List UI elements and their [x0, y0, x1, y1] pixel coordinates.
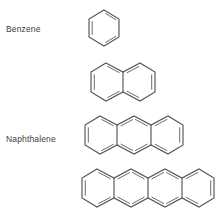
- naphthalene-skeleton: [91, 63, 155, 101]
- naphthalene-ring-structure: [86, 61, 156, 105]
- molecule-label-benzene: Benzene: [6, 24, 41, 34]
- anthracene-double-bond-marks: [88, 119, 179, 150]
- benzene-skeleton: [89, 10, 119, 46]
- acene-series-figure: Benzene Naphthalene: [0, 0, 223, 220]
- anthracene-ring-structure: [80, 114, 184, 158]
- anthracene-skeleton: [85, 116, 183, 154]
- tetracene-ring-structure: [77, 166, 217, 212]
- benzene-ring-structure: [86, 8, 122, 48]
- benzene-double-bond-marks: [92, 13, 116, 42]
